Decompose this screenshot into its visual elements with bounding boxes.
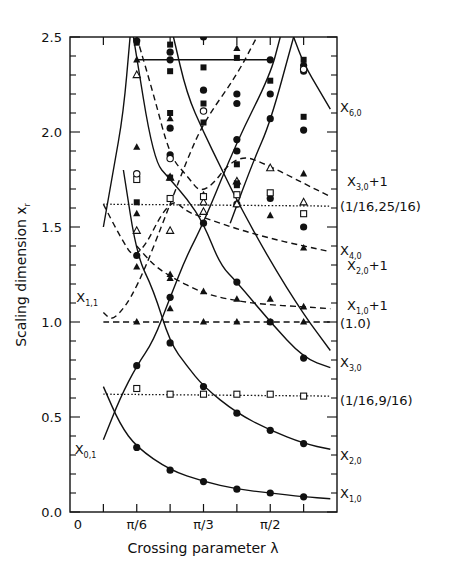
filled-circle-marker (167, 56, 174, 63)
filled-triangle-marker (300, 170, 307, 177)
y-tick-label: 2.0 (41, 125, 62, 140)
filled-circle-marker (267, 90, 274, 97)
curve-x-0-1- (103, 37, 280, 440)
filled-circle-marker (167, 125, 174, 132)
x-tick-label: π/2 (260, 517, 280, 532)
x-axis-ticks: 0π/6π/3π/2 (74, 37, 304, 532)
filled-triangle-marker (233, 295, 240, 302)
filled-circle-marker (300, 127, 307, 134)
filled-circle-marker (267, 115, 274, 122)
curve-label: (1.0) (340, 316, 371, 331)
filled-circle-marker (233, 136, 240, 143)
y-axis-ticks: 0.00.51.01.52.02.5 (41, 30, 337, 520)
filled-circle-marker (233, 410, 240, 417)
open-triangle-marker (200, 208, 207, 215)
curve-labels-right: X6,0X3,0+1(1/16,25/16)X4,0X2,0+1X1,0+1(1… (340, 100, 421, 504)
open-square-marker (134, 386, 140, 392)
filled-square-marker (234, 182, 240, 188)
filled-circle-marker (200, 87, 207, 94)
filled-square-marker (234, 161, 240, 167)
filled-circle-marker (133, 444, 140, 451)
filled-square-marker (201, 64, 207, 70)
open-circle-marker (200, 108, 206, 114)
open-square-marker (201, 194, 207, 200)
curve--1-16-9-16- (103, 394, 330, 396)
filled-square-marker (301, 57, 307, 63)
filled-circle-marker (200, 478, 207, 485)
filled-circle-marker (233, 279, 240, 286)
open-triangle-marker (300, 198, 307, 205)
open-circle-marker (167, 155, 173, 161)
open-triangle-marker (133, 227, 140, 234)
filled-square-marker (167, 68, 173, 74)
filled-circle-marker (167, 339, 174, 346)
filled-circle-marker (300, 493, 307, 500)
filled-square-marker (301, 114, 307, 120)
filled-circle-marker (233, 486, 240, 493)
x-tick-label: π/6 (127, 517, 147, 532)
open-square-marker (167, 391, 173, 397)
markers-layer (133, 33, 307, 500)
x-axis-title: Crossing parameter λ (127, 540, 278, 556)
curve-labels-inner: X1,1X0,1 (75, 290, 98, 460)
filled-circle-marker (167, 467, 174, 474)
curve-label: X2,0 (340, 448, 362, 466)
open-square-marker (234, 192, 240, 198)
filled-circle-marker (200, 383, 207, 390)
curve-label: X1,0 (340, 486, 362, 504)
open-square-marker (301, 393, 307, 399)
y-tick-label: 1.5 (41, 220, 62, 235)
open-square-marker (267, 391, 273, 397)
filled-circle-marker (233, 147, 240, 154)
y-tick-label: 0.0 (41, 505, 62, 520)
filled-triangle-marker (133, 210, 140, 217)
curve-x-6-0- (294, 37, 331, 109)
filled-square-marker (234, 55, 240, 61)
curve-label: X3,0 (340, 355, 362, 373)
filled-circle-marker (133, 362, 140, 369)
open-square-marker (234, 391, 240, 397)
filled-circle-marker (300, 223, 307, 230)
filled-triangle-marker (233, 44, 240, 51)
curve-x-1-1-left-branch (103, 37, 130, 227)
curve-label: X1,1 (76, 290, 98, 308)
filled-triangle-marker (267, 212, 274, 219)
filled-circle-marker (133, 252, 140, 259)
filled-circle-marker (267, 489, 274, 496)
curve-label: X6,0 (340, 100, 362, 118)
filled-circle-marker (167, 294, 174, 301)
curve-label: (1/16,25/16) (340, 199, 421, 214)
filled-circle-marker (267, 56, 274, 63)
open-square-marker (201, 391, 207, 397)
curve-label: (1/16,9/16) (340, 393, 413, 408)
filled-triangle-marker (133, 143, 140, 150)
filled-square-marker (201, 120, 207, 126)
filled-circle-marker (300, 440, 307, 447)
filled-circle-marker (233, 100, 240, 107)
curve-label: X0,1 (75, 442, 97, 460)
filled-square-marker (167, 110, 173, 116)
open-square-marker (167, 196, 173, 202)
filled-triangle-marker (267, 295, 274, 302)
x-tick-label: 0 (74, 517, 82, 532)
open-circle-marker (134, 171, 140, 177)
filled-triangle-marker (200, 288, 207, 295)
y-tick-label: 2.5 (41, 30, 62, 45)
curve-label: X1,0+1 (347, 298, 388, 316)
filled-circle-marker (267, 427, 274, 434)
filled-circle-marker (167, 49, 174, 56)
y-tick-label: 1.0 (41, 315, 62, 330)
open-circle-marker (300, 66, 306, 72)
scaling-dimension-chart: 0π/6π/3π/2 0.00.51.01.52.02.5 Crossing p… (0, 0, 458, 574)
filled-square-marker (201, 101, 207, 107)
curve-label: X3,0+1 (347, 174, 388, 192)
filled-square-marker (167, 175, 173, 181)
y-axis-title: Scaling dimension xr (13, 202, 32, 346)
x-tick-label: π/3 (193, 517, 213, 532)
curve-x-1-0-1 (137, 246, 331, 309)
open-square-marker (301, 211, 307, 217)
open-square-marker (267, 190, 273, 196)
filled-circle-marker (233, 90, 240, 97)
filled-triangle-marker (133, 263, 140, 270)
curve-label: X2,0+1 (347, 258, 388, 276)
